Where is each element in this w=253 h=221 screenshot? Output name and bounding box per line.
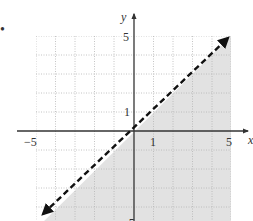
x-tick-1: 1 [150,135,156,149]
x-axis-label: x [247,133,253,147]
inequality-graph: • y x 5 1 −5 −5 1 5 [0,0,253,221]
y-axis-label: y [120,10,127,24]
x-tick-5: 5 [226,135,232,149]
y-tick-neg5: −5 [122,216,135,221]
x-tick-neg5: −5 [24,135,37,149]
y-tick-5: 5 [123,30,129,44]
bullet-marker: • [0,22,5,37]
y-tick-1: 1 [124,105,130,119]
